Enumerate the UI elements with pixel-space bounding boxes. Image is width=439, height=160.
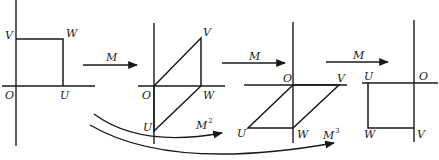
label-u: U: [364, 71, 373, 82]
label-m3-exponent: 3: [335, 127, 339, 135]
label-m2-exponent: 2: [208, 117, 212, 125]
label-w: W: [297, 129, 308, 140]
label-arrow-m-step3: M: [353, 50, 364, 61]
label-o: O: [142, 90, 151, 101]
label-arrow-m-step1: M: [106, 52, 117, 63]
label-w: W: [66, 28, 77, 39]
panel-after-m2: [244, 22, 347, 143]
label-v: V: [337, 73, 345, 84]
label-v: V: [417, 129, 425, 140]
label-v: V: [203, 27, 211, 38]
square-shape: [368, 83, 414, 128]
label-o: O: [5, 90, 14, 101]
label-w: W: [364, 129, 375, 140]
label-u: U: [143, 122, 152, 133]
label-o: O: [419, 71, 428, 82]
label-m2-base: M: [196, 119, 207, 132]
parallelogram-shape: [154, 38, 201, 131]
panel-original: [2, 0, 95, 146]
label-w: W: [203, 90, 214, 101]
label-arrow-m3: M3: [323, 130, 340, 141]
label-arrow-m2: M2: [196, 120, 213, 131]
label-u: U: [237, 128, 246, 139]
label-m3-base: M: [323, 129, 334, 142]
label-o: O: [283, 73, 292, 84]
label-arrow-m-step2: M: [249, 51, 260, 62]
label-v: V: [5, 30, 13, 41]
square-shape: [16, 39, 63, 86]
label-u: U: [60, 90, 69, 101]
